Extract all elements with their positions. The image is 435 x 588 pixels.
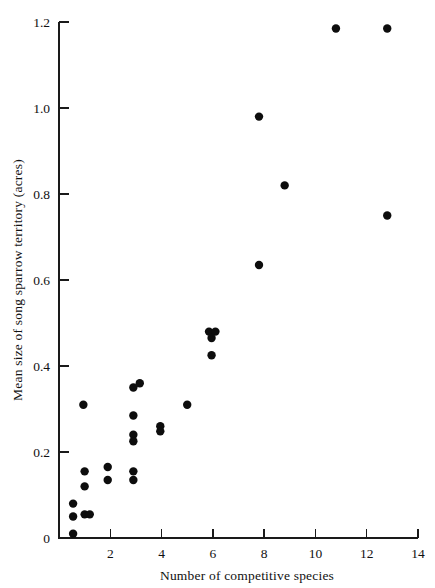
y-tick-label-5: 1.0 <box>33 101 50 116</box>
x-tick-label-6: 12 <box>360 546 374 561</box>
y-axis-title: Mean size of song sparrow territory (acr… <box>10 159 25 401</box>
data-point-26 <box>280 181 288 189</box>
plot-canvas: 00.20.40.60.81.01.2 2468101214 Number of… <box>0 0 435 588</box>
data-point-27 <box>332 24 340 32</box>
x-axis-title: Number of competitive species <box>160 568 334 583</box>
data-point-8 <box>104 463 112 471</box>
data-point-23 <box>207 351 215 359</box>
data-point-11 <box>136 379 144 387</box>
data-point-12 <box>129 411 137 419</box>
axis-spines <box>59 22 418 538</box>
data-point-14 <box>129 437 137 445</box>
y-tick-label-3: 0.6 <box>33 273 50 288</box>
x-tick-labels: 2468101214 <box>107 546 425 561</box>
data-point-4 <box>80 482 88 490</box>
y-tick-label-4: 0.8 <box>33 187 50 202</box>
data-point-25 <box>255 261 263 269</box>
data-point-6 <box>86 510 94 518</box>
data-point-19 <box>183 401 191 409</box>
axis-ticks <box>59 22 418 538</box>
data-point-9 <box>104 476 112 484</box>
y-tick-label-0: 0 <box>43 531 50 546</box>
y-tick-label-6: 1.2 <box>33 15 50 30</box>
x-tick-label-2: 4 <box>158 546 165 561</box>
y-tick-labels: 00.20.40.60.81.01.2 <box>33 15 50 546</box>
data-point-15 <box>129 467 137 475</box>
data-point-24 <box>255 112 263 120</box>
y-tick-label-2: 0.4 <box>33 359 50 374</box>
data-point-2 <box>69 530 77 538</box>
scatter-plot-figure: 00.20.40.60.81.01.2 2468101214 Number of… <box>0 0 435 588</box>
y-tick-label-1: 0.2 <box>33 445 50 460</box>
data-point-18 <box>156 427 164 435</box>
data-point-16 <box>129 476 137 484</box>
data-points <box>69 24 392 538</box>
data-point-28 <box>383 24 391 32</box>
x-tick-label-7: 14 <box>411 546 425 561</box>
x-tick-label-4: 8 <box>261 546 268 561</box>
data-point-22 <box>207 334 215 342</box>
data-point-7 <box>79 401 87 409</box>
axes <box>59 22 418 538</box>
x-tick-label-5: 10 <box>309 546 323 561</box>
data-point-29 <box>383 211 391 219</box>
x-tick-label-1: 2 <box>107 546 114 561</box>
data-point-3 <box>80 467 88 475</box>
data-point-1 <box>69 512 77 520</box>
x-tick-label-3: 6 <box>209 546 216 561</box>
data-point-0 <box>69 499 77 507</box>
